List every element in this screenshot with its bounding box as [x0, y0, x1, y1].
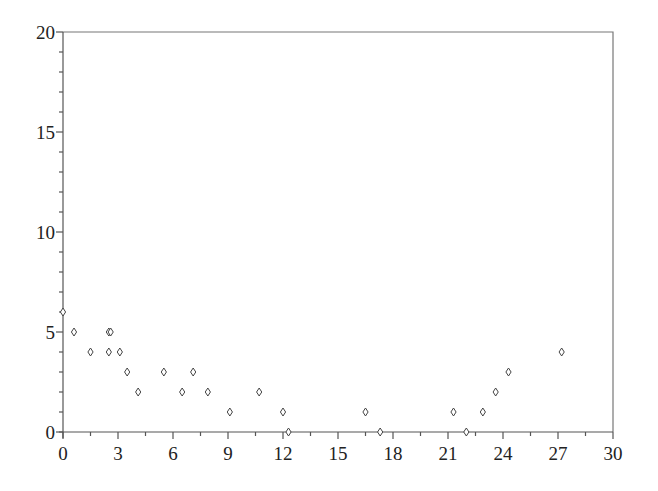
data-point-diamond-icon	[480, 408, 485, 416]
data-points	[60, 308, 564, 436]
data-point-diamond-icon	[451, 408, 456, 416]
data-point-diamond-icon	[125, 368, 130, 376]
x-tick-label: 12	[274, 443, 293, 464]
data-point-diamond-icon	[286, 428, 291, 436]
data-point-diamond-icon	[161, 368, 166, 376]
data-point-diamond-icon	[493, 388, 498, 396]
y-tick-label: 5	[46, 322, 56, 343]
x-axis: 036912151821242730	[58, 432, 622, 464]
data-point-diamond-icon	[363, 408, 368, 416]
data-point-diamond-icon	[191, 368, 196, 376]
data-point-diamond-icon	[180, 388, 185, 396]
data-point-diamond-icon	[506, 368, 511, 376]
data-point-diamond-icon	[280, 408, 285, 416]
scatter-chart: 036912151821242730 05101520	[0, 0, 658, 491]
data-point-diamond-icon	[117, 348, 122, 356]
y-tick-label: 15	[36, 122, 55, 143]
data-point-diamond-icon	[205, 388, 210, 396]
x-tick-label: 6	[168, 443, 178, 464]
x-tick-label: 27	[549, 443, 568, 464]
x-tick-label: 0	[58, 443, 68, 464]
x-tick-label: 15	[329, 443, 348, 464]
x-tick-label: 9	[223, 443, 233, 464]
data-point-diamond-icon	[106, 348, 111, 356]
x-tick-label: 18	[384, 443, 403, 464]
data-point-diamond-icon	[60, 308, 65, 316]
y-axis: 05101520	[36, 22, 63, 443]
data-point-diamond-icon	[559, 348, 564, 356]
y-tick-label: 10	[36, 222, 55, 243]
x-tick-label: 3	[113, 443, 123, 464]
data-point-diamond-icon	[227, 408, 232, 416]
data-point-diamond-icon	[378, 428, 383, 436]
plot-frame	[63, 32, 613, 432]
data-point-diamond-icon	[464, 428, 469, 436]
data-point-diamond-icon	[88, 348, 93, 356]
x-tick-label: 21	[439, 443, 458, 464]
data-point-diamond-icon	[136, 388, 141, 396]
x-tick-label: 24	[494, 443, 514, 464]
y-tick-label: 20	[36, 22, 55, 43]
plot-border	[63, 32, 613, 432]
data-point-diamond-icon	[71, 328, 76, 336]
y-tick-label: 0	[46, 422, 56, 443]
data-point-diamond-icon	[257, 388, 262, 396]
x-tick-label: 30	[604, 443, 623, 464]
